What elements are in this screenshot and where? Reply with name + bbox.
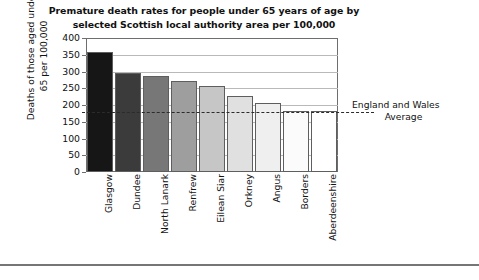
bar [311,111,336,172]
y-axis-tick-label-slot: 0 [42,167,80,177]
chart-title-line-2: selected Scottish local authority area p… [44,18,364,32]
bar [199,86,224,172]
y-axis-tick-label: 350 [46,50,80,59]
y-axis-tick-label-slot: 200 [42,100,80,110]
y-axis-tick-label: 200 [46,100,80,109]
y-axis-tick-label: 300 [46,67,80,76]
x-axis-tick-label: Dundee [132,174,141,210]
y-axis-tick-label: 400 [46,33,80,42]
x-axis-tick-label: Borders [300,174,309,210]
y-axis-tick-label-slot: 400 [42,33,80,43]
england-and-wales-average-line [82,112,374,113]
bar [227,96,252,172]
bar [171,81,196,172]
x-axis-tick-label: Renfrew [188,174,197,211]
chart-title: Premature death rates for people under 6… [44,4,364,31]
bar [255,103,280,172]
y-axis-tick-label: 150 [46,117,80,126]
y-axis-tick-label-slot: 300 [42,67,80,77]
average-label-line-1: England and Wales [352,99,440,110]
england-and-wales-average-label: England and Wales Average [352,99,477,124]
y-axis-tick-label-slot: 100 [42,134,80,144]
y-axis-tick-label-slot: 50 [42,150,80,160]
y-axis-tick-label: 0 [46,167,80,176]
y-axis-tick-label: 250 [46,83,80,92]
average-label-line-2: Average [352,111,455,123]
page-divider-rule [0,264,479,266]
x-axis-tick-label: Eilean Siar [216,174,225,223]
y-axis-tick-label-slot: 250 [42,83,80,93]
x-axis-tick-label: North Lanark [160,174,169,234]
y-axis-tick-label: 50 [46,150,80,159]
chart-title-line-1: Premature death rates for people under 6… [44,4,364,18]
bar [115,73,140,172]
x-axis-tick-label: Angus [272,174,281,203]
bar-series [86,38,338,172]
x-axis-tick-label: Glasgow [104,174,113,213]
y-axis-tick-label-slot: 350 [42,50,80,60]
bar [283,111,308,172]
y-axis-tick-label: 100 [46,134,80,143]
bar [143,76,168,172]
x-axis-tick-label: Aberdeenshire [328,174,337,241]
y-axis-tick [82,172,86,173]
x-axis-tick-label: Orkney [244,174,253,207]
x-axis-tick-labels: GlasgowDundeeNorth LanarkRenfrewEilean S… [86,174,338,274]
y-axis-title-line-1: Deaths of those aged under [25,0,38,120]
y-axis-tick-label-slot: 150 [42,117,80,127]
